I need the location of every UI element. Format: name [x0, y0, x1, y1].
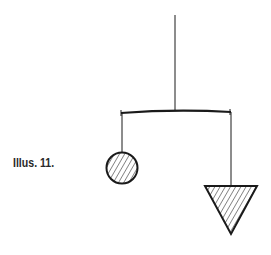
mobile-illustration: [0, 0, 271, 255]
balance-bar: [121, 111, 231, 113]
hatched-circle-weight: [100, 146, 144, 190]
hatched-triangle-weight: [200, 182, 262, 238]
